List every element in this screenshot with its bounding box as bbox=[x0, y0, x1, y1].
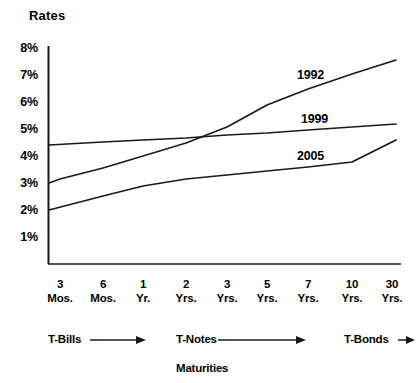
x-tick-number: 6 bbox=[100, 278, 106, 290]
series-label-2005: 2005 bbox=[297, 149, 324, 163]
t-bonds-arrow-icon bbox=[398, 336, 415, 344]
yield-curve-chart: Rates 8% 7% 6% 5% 4% 3% 2% 1% bbox=[0, 0, 419, 383]
x-tick-number: 3 bbox=[224, 278, 230, 290]
x-tick-unit: Yr. bbox=[136, 292, 150, 304]
x-tick-number: 2 bbox=[183, 278, 189, 290]
x-tick-label-2yrs: 2 Yrs. bbox=[163, 278, 209, 305]
x-tick-number: 10 bbox=[346, 278, 358, 290]
x-tick-label-3mos: 3 Mos. bbox=[37, 278, 83, 305]
series-label-1999: 1999 bbox=[301, 112, 328, 126]
segment-label-t-notes: T-Notes bbox=[176, 333, 217, 345]
x-tick-number: 7 bbox=[305, 278, 311, 290]
x-tick-unit: Yrs. bbox=[298, 292, 319, 304]
series-line-1999 bbox=[49, 124, 396, 145]
x-tick-label-1yr: 1 Yr. bbox=[120, 278, 166, 305]
x-tick-number: 5 bbox=[264, 278, 270, 290]
x-tick-unit: Yrs. bbox=[176, 292, 197, 304]
segment-label-t-bonds: T-Bonds bbox=[344, 333, 389, 345]
series-line-2005 bbox=[49, 140, 396, 210]
series-label-1992: 1992 bbox=[297, 68, 324, 82]
x-tick-unit: Yrs. bbox=[382, 292, 403, 304]
x-tick-label-7yrs: 7 Yrs. bbox=[285, 278, 331, 305]
x-tick-unit: Yrs. bbox=[342, 292, 363, 304]
x-tick-label-5yrs: 5 Yrs. bbox=[244, 278, 290, 305]
segment-label-t-bills: T-Bills bbox=[48, 333, 81, 345]
x-tick-number: 30 bbox=[386, 278, 398, 290]
series-line-1992 bbox=[49, 60, 396, 183]
x-tick-unit: Mos. bbox=[90, 292, 115, 304]
t-bills-arrow-icon bbox=[90, 336, 146, 344]
x-tick-label-30yrs: 30 Yrs. bbox=[369, 278, 415, 305]
x-tick-unit: Yrs. bbox=[257, 292, 278, 304]
t-notes-arrow-icon bbox=[218, 336, 306, 344]
x-tick-unit: Yrs. bbox=[217, 292, 238, 304]
plot-area bbox=[0, 0, 419, 383]
x-tick-number: 1 bbox=[140, 278, 146, 290]
x-tick-number: 3 bbox=[57, 278, 63, 290]
x-tick-unit: Mos. bbox=[47, 292, 72, 304]
x-axis-title: Maturities bbox=[176, 362, 228, 374]
